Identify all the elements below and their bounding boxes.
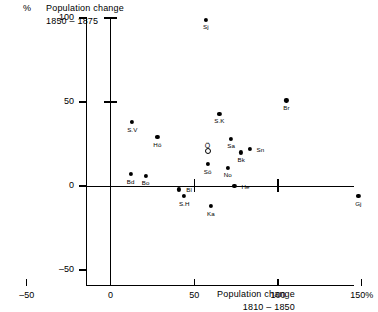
data-point-S.V: [130, 120, 134, 124]
data-point-label-Br: Br: [283, 104, 289, 111]
data-point-label-No: No: [224, 171, 232, 178]
y-tick--50: [79, 269, 87, 270]
x-tick-50: [194, 279, 195, 286]
data-point-Sa: [229, 137, 233, 141]
data-point-label-Sj: Sj: [203, 23, 209, 30]
data-point-label-Bl: Bl: [186, 186, 192, 193]
data-point-S.K: [217, 112, 221, 116]
data-point-label-S.V: S.V: [127, 126, 137, 133]
data-point-label-He: He: [241, 183, 249, 190]
x-tick-zeroline-50: [194, 179, 195, 192]
y-tick-50: [79, 101, 87, 102]
x-tick-label-0: 0: [91, 290, 131, 300]
y-axis-unit: %: [23, 3, 31, 13]
y-axis-line: [86, 18, 87, 286]
y-tick-label-100: 100: [40, 12, 74, 22]
data-point-No: [226, 165, 230, 169]
x-axis-title-line2: 1810 – 1850: [217, 301, 295, 312]
data-point-He: [232, 184, 236, 188]
x-tick-label-50: 50: [174, 290, 214, 300]
data-point-label-S.K: S.K: [214, 117, 224, 124]
data-point-Bo: [144, 174, 148, 178]
data-point-label-S.H: S.H: [179, 200, 190, 207]
data-point-label-Bd: Bd: [127, 178, 135, 185]
data-point-Hö: [155, 135, 159, 139]
data-point-label-Gj: Gj: [355, 200, 361, 207]
data-point-label-Sö: Sö: [204, 168, 212, 175]
x-tick-label--50: –50: [7, 290, 47, 300]
scatter-plot: % Population change 1850 – 1875 Populati…: [0, 0, 378, 312]
data-point-Bd: [129, 172, 133, 176]
x-tick-100: [277, 279, 278, 286]
data-point-Ka: [209, 204, 213, 208]
data-point-label-Sa: Sa: [227, 142, 235, 149]
x-tick-label-100: 100: [258, 290, 298, 300]
x-tick-0: [110, 279, 111, 286]
data-point-Sö: [206, 162, 210, 166]
y-tick-inner-50: [104, 101, 117, 102]
data-point-Bk: [239, 150, 243, 154]
data-point-label-Ö: Ö: [205, 142, 211, 149]
y-tick-label-50: 50: [40, 96, 74, 106]
y-tick-100: [79, 17, 87, 18]
x-axis-line: [86, 285, 354, 286]
data-point-label-Ka: Ka: [207, 210, 215, 217]
x-tick-zeroline-100: [277, 179, 278, 192]
data-point-label-Bk: Bk: [237, 156, 244, 163]
data-point-label-Hö: Hö: [153, 141, 161, 148]
data-point-S.H: [182, 194, 186, 198]
y-tick-inner-100: [104, 17, 117, 18]
data-point-label-Sn: Sn: [257, 146, 265, 153]
y-tick-label--50: –50: [40, 264, 74, 274]
x-axis-zero-line: [86, 186, 354, 187]
y-axis-zero-line: [110, 18, 111, 286]
y-tick-0: [79, 185, 87, 186]
data-point-Gj: [356, 194, 360, 198]
data-point-Sn: [247, 147, 251, 151]
x-tick-label-150: 150%: [342, 290, 378, 300]
y-tick-label-0: 0: [40, 180, 74, 190]
data-point-Br: [284, 98, 288, 102]
data-point-Bl: [177, 187, 181, 191]
data-point-label-Bo: Bo: [142, 179, 150, 186]
x-tick-150: [361, 279, 362, 286]
x-tick--50: [26, 279, 27, 286]
data-point-Sj: [204, 18, 208, 22]
